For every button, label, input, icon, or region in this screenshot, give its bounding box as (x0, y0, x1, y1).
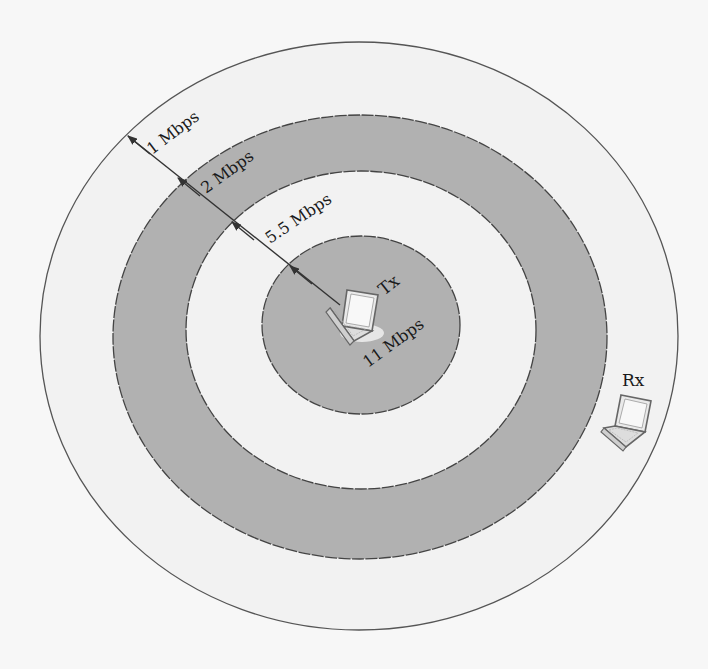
coverage-diagram: 1 Mbps 2 Mbps 5.5 Mbps 11 Mbps Tx Rx (0, 0, 708, 669)
rx-label: Rx (622, 370, 645, 390)
